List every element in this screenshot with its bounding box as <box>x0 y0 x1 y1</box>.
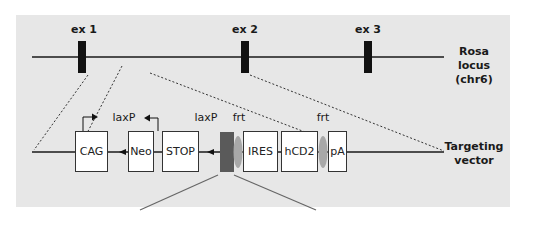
loxp-label-2: laxP <box>195 112 218 124</box>
exon-3-block <box>364 41 372 73</box>
frt-site-1 <box>234 136 243 168</box>
stop-box: STOP <box>162 131 199 172</box>
expansion-line-left <box>140 175 218 210</box>
homology-line-4 <box>250 75 444 151</box>
insert-block <box>220 132 234 172</box>
rosa-locus-label: Rosa locus (chr6) <box>444 45 505 87</box>
arrow-left-icon <box>144 115 150 122</box>
frt-label-2: frt <box>317 112 330 124</box>
frt-site-2 <box>319 136 328 168</box>
pa-box: pA <box>328 131 347 172</box>
exon-2-block <box>241 41 249 73</box>
targeting-vector-label: Targeting vector <box>444 140 503 168</box>
expansion-line-right <box>234 175 316 210</box>
exon-3-label: ex 3 <box>355 24 381 36</box>
ires-box: IRES <box>243 131 278 172</box>
arrow-right-icon <box>92 114 98 121</box>
frt-label-1: frt <box>233 112 246 124</box>
exon-1-label: ex 1 <box>71 24 97 36</box>
exon-1-block <box>78 41 86 73</box>
exon-2-label: ex 2 <box>232 24 258 36</box>
hcd2-box: hCD2 <box>281 131 318 172</box>
loxp-label-1: laxP <box>113 112 136 124</box>
homology-line-2 <box>85 66 122 137</box>
homology-line-3 <box>150 73 305 132</box>
arrow-left-icon <box>207 149 214 155</box>
cag-box: CAG <box>75 131 108 172</box>
arrow-left-icon <box>119 149 126 155</box>
neo-box: Neo <box>128 131 154 172</box>
